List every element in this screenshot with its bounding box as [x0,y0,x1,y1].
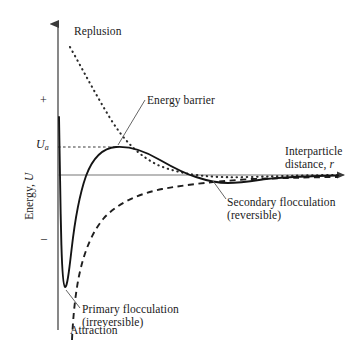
secondary-flocculation-label: Secondary flocculation(reversible) [227,196,336,221]
barrier-level-label: Ua [36,138,49,153]
primary-flocculation-label: Primary flocculation(irreversible) [82,303,179,328]
energy-barrier-leader [118,100,145,145]
plot-canvas [0,0,358,346]
primary-flocculation-line1: Primary flocculation [82,303,179,315]
barrier-level-symbol: U [36,137,45,151]
primary-flocculation-leader [66,290,80,308]
x-axis-label-line2: distance, [285,158,329,170]
x-axis-label: Interparticledistance, r [285,145,343,170]
y-axis-label-symbol: U [23,173,35,181]
x-axis-label-symbol: r [329,158,334,170]
primary-flocculation-line2: (irreversible) [82,316,143,328]
barrier-level-subscript: a [45,143,49,152]
secondary-flocculation-line2: (reversible) [227,209,281,221]
x-axis-label-line1: Interparticle [285,145,343,157]
energy-barrier-label: Energy barrier [147,94,215,107]
y-axis-tick-negative: – [41,232,47,245]
y-axis-tick-positive: + [40,94,47,107]
y-axis-label-text: Energy, [23,181,35,220]
y-axis-label: Energy, U [23,151,36,241]
dlvo-energy-diagram: Energy, U Interparticledistance, r + – U… [0,0,358,346]
repulsion-label: Replusion [74,25,122,38]
secondary-flocculation-line1: Secondary flocculation [227,196,336,208]
